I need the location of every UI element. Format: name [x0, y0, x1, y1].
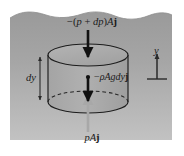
weight-unit-vector: j	[125, 71, 128, 82]
weight-force-label: −ρAgdyj	[94, 72, 128, 82]
bottom-force-unit-vector: j	[96, 132, 100, 143]
dy-label: dy	[26, 73, 36, 84]
bottom-force-label: pAj	[84, 133, 99, 144]
top-force-plus: +	[82, 16, 93, 27]
top-force-label: −(p + dp)Aj	[67, 17, 117, 28]
hydrostatic-pressure-figure: −(p + dp)Aj −ρAgdyj pAj dy y	[0, 0, 184, 156]
top-force-unit-vector: j	[113, 16, 117, 27]
top-force-dp: dp	[93, 16, 104, 27]
weight-dy: dy	[116, 71, 125, 82]
y-axis-label: y	[154, 46, 159, 57]
